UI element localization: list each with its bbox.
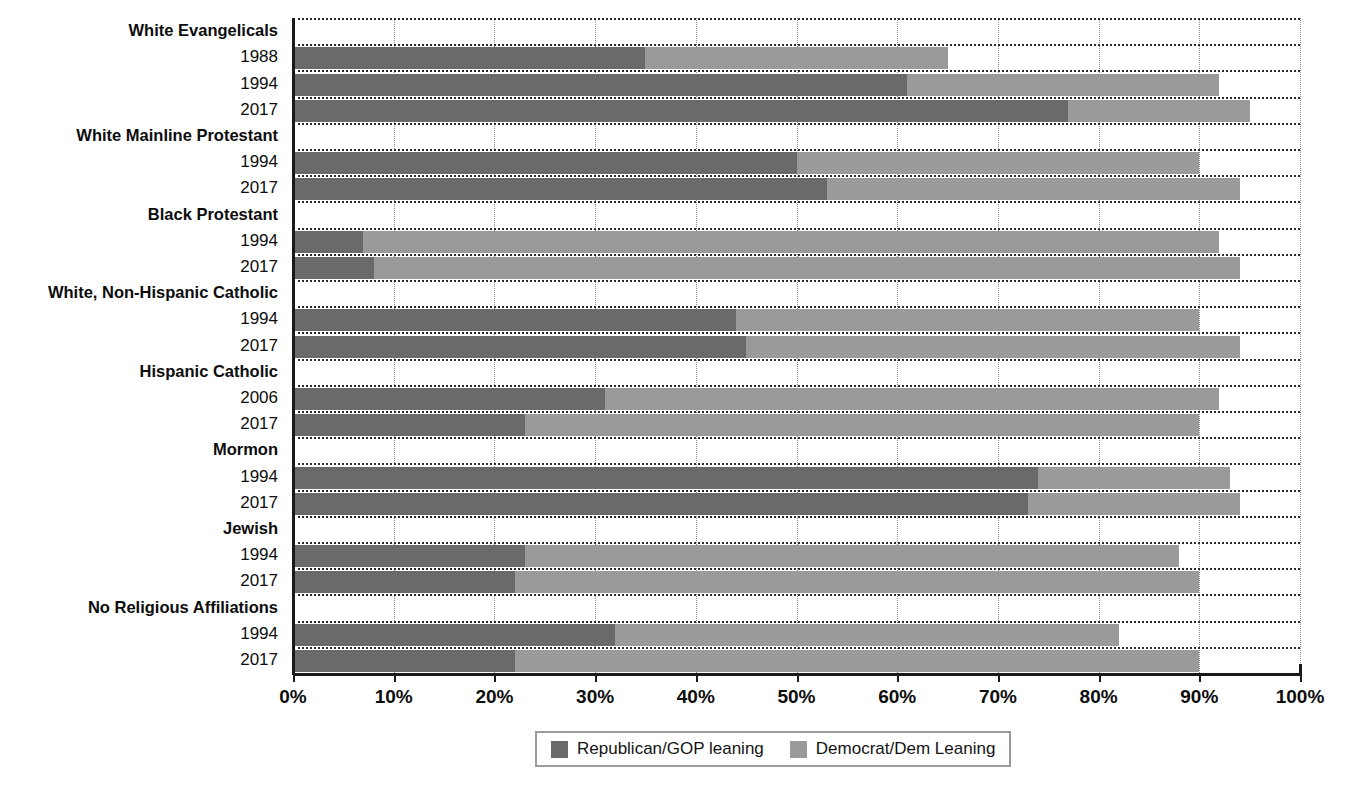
x-axis-tick-label: 60%	[878, 686, 916, 708]
x-axis-tick	[595, 673, 597, 682]
row-separator	[293, 647, 1300, 649]
group-label: White Evangelicals	[129, 22, 278, 39]
bar-stacked	[293, 624, 1119, 646]
category-axis-labels: White Evangelicals198819942017White Main…	[0, 18, 288, 673]
bar-segment-republican	[293, 309, 736, 331]
group-label: No Religious Affiliations	[88, 599, 278, 616]
row-separator	[293, 490, 1300, 492]
bar-stacked	[293, 388, 1219, 410]
bar-stacked	[293, 178, 1240, 200]
x-axis-tick-label: 10%	[375, 686, 413, 708]
plot-area	[293, 18, 1300, 673]
bar-stacked	[293, 47, 948, 69]
bar-segment-democrat	[1028, 493, 1239, 515]
bar-segment-republican	[293, 178, 827, 200]
bar-segment-democrat	[907, 74, 1219, 96]
row-separator	[293, 306, 1300, 308]
group-label: White Mainline Protestant	[76, 127, 278, 144]
chart-container: White Evangelicals198819942017White Main…	[0, 0, 1361, 792]
group-label: Jewish	[223, 520, 278, 537]
year-label: 2017	[240, 651, 278, 668]
row-separator	[293, 149, 1300, 151]
chart-legend: Republican/GOP leaning Democrat/Dem Lean…	[535, 731, 1011, 767]
year-label: 1994	[240, 625, 278, 642]
bar-segment-democrat	[797, 152, 1200, 174]
bar-segment-democrat	[363, 231, 1219, 253]
bar-segment-republican	[293, 571, 515, 593]
row-separator	[293, 70, 1300, 72]
bar-stacked	[293, 467, 1230, 489]
x-axis-tick	[797, 673, 799, 682]
year-label: 2006	[240, 389, 278, 406]
year-label: 1988	[240, 48, 278, 65]
row-separator	[293, 97, 1300, 99]
bar-segment-republican	[293, 152, 797, 174]
group-label: Black Protestant	[148, 206, 278, 223]
legend-swatch-democrat-icon	[790, 741, 807, 758]
x-axis-tick	[494, 673, 496, 682]
bar-segment-republican	[293, 47, 645, 69]
row-separator	[293, 516, 1300, 518]
bar-stacked	[293, 650, 1199, 672]
bar-segment-republican	[293, 414, 525, 436]
x-axis-tick	[293, 673, 295, 682]
gridline-vertical	[1300, 18, 1301, 673]
row-separator	[293, 411, 1300, 413]
group-label: Hispanic Catholic	[140, 363, 278, 380]
row-separator	[293, 123, 1300, 125]
bar-segment-republican	[293, 545, 525, 567]
bar-segment-republican	[293, 336, 746, 358]
legend-swatch-republican-icon	[551, 741, 568, 758]
bar-stacked	[293, 309, 1199, 331]
bar-stacked	[293, 414, 1199, 436]
bar-segment-republican	[293, 257, 374, 279]
bar-segment-democrat	[827, 178, 1240, 200]
bar-segment-republican	[293, 231, 363, 253]
year-label: 2017	[240, 179, 278, 196]
bar-segment-democrat	[746, 336, 1239, 358]
bar-stacked	[293, 493, 1240, 515]
year-label: 1994	[240, 546, 278, 563]
x-axis-tick	[394, 673, 396, 682]
x-axis-tick-label: 40%	[677, 686, 715, 708]
x-axis-tick	[696, 673, 698, 682]
bar-segment-democrat	[515, 571, 1200, 593]
bar-segment-democrat	[645, 47, 947, 69]
group-label: White, Non-Hispanic Catholic	[48, 284, 278, 301]
row-separator	[293, 44, 1300, 46]
group-label: Mormon	[213, 441, 278, 458]
row-separator	[293, 542, 1300, 544]
row-separator	[293, 18, 1300, 20]
bar-segment-republican	[293, 650, 515, 672]
row-separator	[293, 385, 1300, 387]
bar-segment-democrat	[525, 545, 1180, 567]
x-axis-tick-label: 50%	[777, 686, 815, 708]
row-separator	[293, 175, 1300, 177]
legend-label-republican: Republican/GOP leaning	[577, 739, 764, 759]
bar-segment-democrat	[374, 257, 1240, 279]
bar-stacked	[293, 74, 1219, 96]
bar-stacked	[293, 231, 1219, 253]
year-label: 2017	[240, 494, 278, 511]
x-axis-tick-label: 70%	[979, 686, 1017, 708]
bar-stacked	[293, 545, 1179, 567]
x-axis-tick-label: 90%	[1180, 686, 1218, 708]
x-axis-tick	[1099, 673, 1101, 682]
bar-segment-republican	[293, 493, 1028, 515]
row-separator	[293, 463, 1300, 465]
bar-segment-republican	[293, 100, 1068, 122]
legend-label-democrat: Democrat/Dem Leaning	[816, 739, 996, 759]
x-axis-tick-label: 100%	[1276, 686, 1325, 708]
x-axis-tick	[1199, 673, 1201, 682]
bar-segment-republican	[293, 624, 615, 646]
year-label: 1994	[240, 153, 278, 170]
bar-segment-republican	[293, 467, 1038, 489]
row-separator	[293, 359, 1300, 361]
row-separator	[293, 332, 1300, 334]
year-label: 1994	[240, 468, 278, 485]
x-axis-tick-label: 30%	[576, 686, 614, 708]
year-label: 1994	[240, 310, 278, 327]
year-label: 2017	[240, 415, 278, 432]
bar-stacked	[293, 336, 1240, 358]
y-axis-line	[292, 18, 295, 675]
